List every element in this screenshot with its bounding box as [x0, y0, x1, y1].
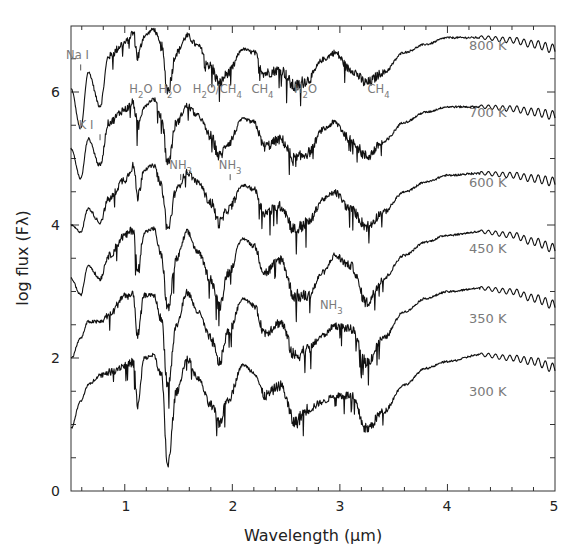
temperature-label: 700 K [469, 105, 507, 120]
ytick-6: 6 [51, 84, 60, 100]
plot-frame [71, 26, 555, 491]
annotation-label: CH4 [368, 82, 390, 100]
y-axis-title: log flux (Fλ) [13, 210, 32, 305]
temperature-label: 800 K [469, 38, 507, 53]
ytick-0: 0 [51, 483, 60, 499]
xtick-3: 3 [336, 498, 345, 514]
annotation-label: Na I [66, 48, 89, 62]
xtick-2: 2 [229, 498, 238, 514]
xtick-4: 4 [443, 498, 452, 514]
temperature-labels: 800 K700 K600 K450 K350 K300 K [469, 38, 507, 399]
x-axis-title: Wavelength (μm) [244, 526, 382, 545]
temperature-label: 600 K [469, 175, 507, 190]
axis-ticks [71, 26, 555, 491]
spectra-chart: 800 K700 K600 K450 K350 K300 K Na IK IH2… [0, 0, 575, 554]
ytick-2: 2 [51, 350, 60, 366]
xtick-5: 5 [550, 498, 559, 514]
annotation-label: H2O/CH4 [193, 82, 242, 100]
annotation-label: NH3 [219, 158, 242, 176]
temperature-label: 350 K [469, 311, 507, 326]
annotation-label: H2O [129, 82, 152, 100]
annotation-label: K I [79, 118, 94, 132]
xtick-1: 1 [122, 498, 131, 514]
annotation-label: CH4 [251, 82, 273, 100]
temperature-label: 450 K [469, 241, 507, 256]
spectrum-300k [71, 353, 555, 467]
temperature-label: 300 K [469, 384, 507, 399]
annotation-label: NH3 [320, 298, 343, 316]
annotation-label: NH3 [169, 158, 192, 176]
ytick-4: 4 [51, 217, 60, 233]
